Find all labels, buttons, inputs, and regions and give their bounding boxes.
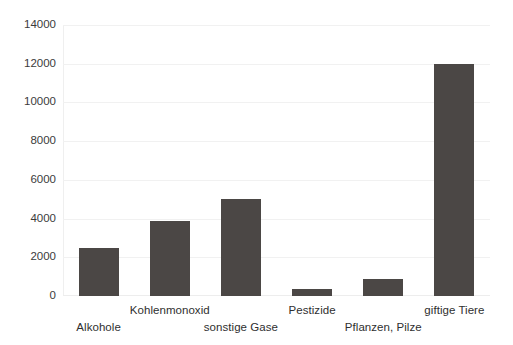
gridline-14000 [63, 25, 490, 26]
y-tick-label-4000: 4000 [0, 213, 56, 225]
bar-kohlenmonoxid [150, 221, 190, 296]
y-tick-label-12000: 12000 [0, 58, 56, 70]
y-tick-label-2000: 2000 [0, 252, 56, 264]
y-tick-label-0: 0 [0, 290, 56, 302]
bar-chart: 0 2000 4000 6000 8000 10000 12000 14000 … [0, 0, 513, 345]
gridline-12000 [63, 64, 490, 65]
gridline-2000 [63, 257, 490, 258]
gridline-10000 [63, 102, 490, 103]
y-tick-label-6000: 6000 [0, 174, 56, 186]
bar-alkohole [79, 248, 119, 296]
bar-pflanzen-pilze [363, 279, 403, 296]
y-tick-label-10000: 10000 [0, 97, 56, 109]
gridline-4000 [63, 219, 490, 220]
x-tick-label-sonstige-gase: sonstige Gase [161, 322, 321, 334]
x-tick-label-pflanzen-pilze: Pflanzen, Pilze [303, 322, 463, 334]
bar-pestizide [292, 289, 332, 296]
gridline-6000 [63, 180, 490, 181]
y-tick-label-14000: 14000 [0, 19, 56, 31]
gridline-0 [63, 295, 490, 296]
bar-giftige-tiere [434, 64, 474, 296]
x-tick-label-pestizide: Pestizide [232, 305, 392, 317]
x-tick-label-giftige-tiere: giftige Tiere [374, 305, 513, 317]
y-tick-label-8000: 8000 [0, 135, 56, 147]
plot-area [63, 25, 490, 296]
gridline-8000 [63, 141, 490, 142]
bar-sonstige-gase [221, 199, 261, 296]
x-tick-label-kohlenmonoxid: Kohlenmonoxid [90, 305, 250, 317]
x-tick-label-alkohole: Alkohole [19, 322, 179, 334]
